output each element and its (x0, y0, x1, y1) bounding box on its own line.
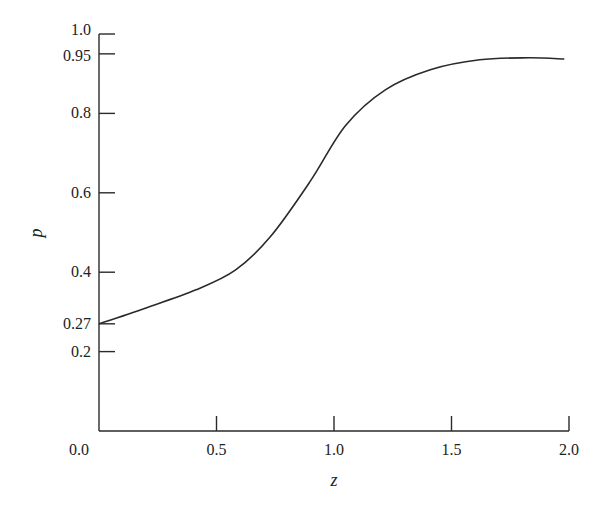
line-chart: 0.20.270.40.60.80.951.0 0.00.51.01.52.0 … (0, 0, 609, 511)
x-axis-label: z (329, 470, 337, 490)
axes (99, 34, 569, 431)
y-tick-label: 0.4 (71, 263, 91, 280)
x-tick-label: 0.5 (207, 441, 227, 458)
x-tick-label: 1.0 (324, 441, 344, 458)
y-tick-label: 0.8 (71, 104, 91, 121)
x-tick-label: 0.0 (69, 441, 89, 458)
y-tick-label: 0.2 (71, 343, 91, 360)
y-tick-label: 0.27 (63, 315, 91, 332)
data-curve (99, 58, 564, 324)
x-tick-label: 2.0 (559, 441, 579, 458)
y-axis-label: p (26, 229, 46, 240)
x-tick-label: 1.5 (442, 441, 462, 458)
y-tick-label: 1.0 (71, 21, 91, 38)
x-axis-ticks: 0.00.51.01.52.0 (69, 416, 579, 458)
y-tick-label: 0.6 (71, 184, 91, 201)
y-tick-label: 0.95 (63, 47, 91, 64)
y-axis-ticks: 0.20.270.40.60.80.951.0 (63, 21, 115, 360)
